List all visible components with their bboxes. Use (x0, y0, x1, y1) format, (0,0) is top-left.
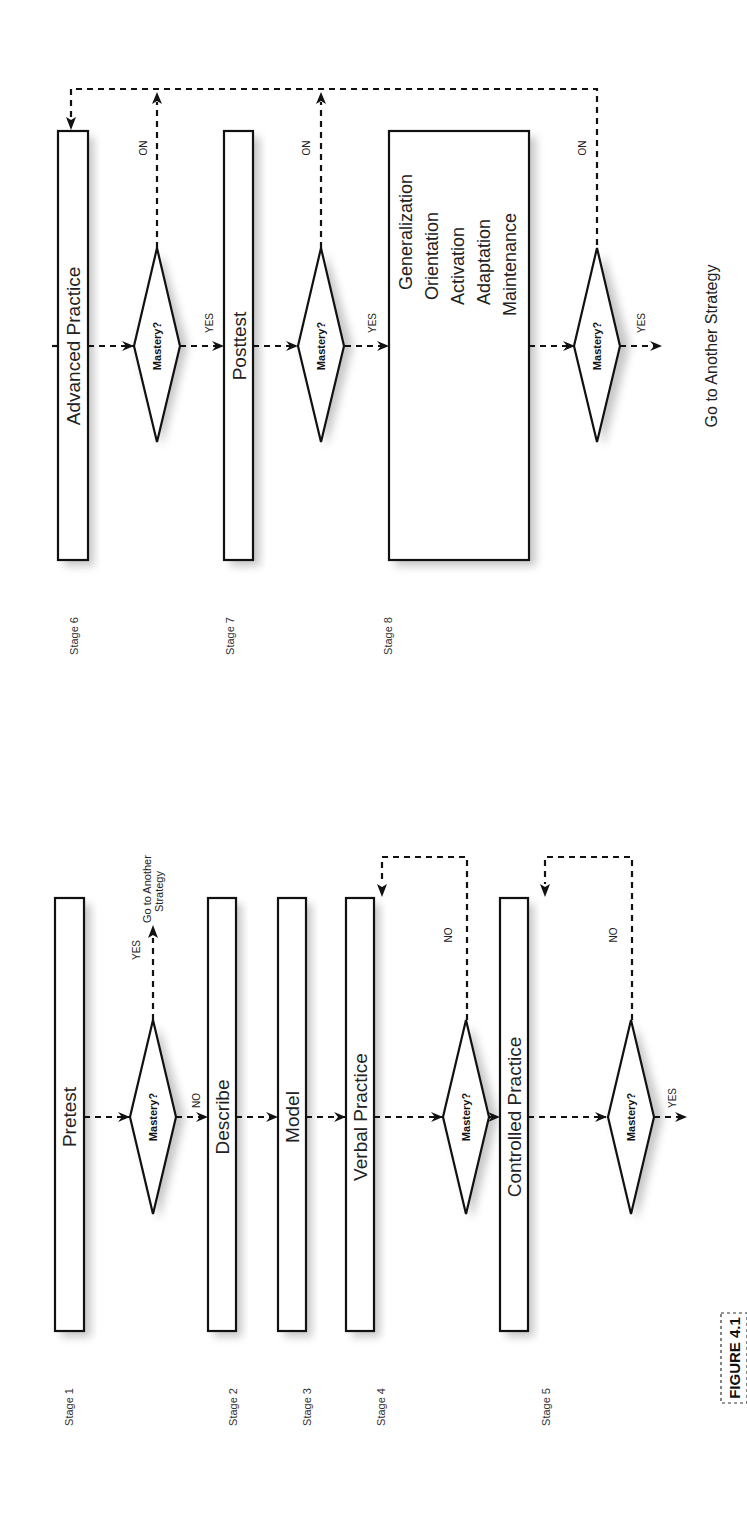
figure-label: FIGURE 4.1 (726, 1317, 743, 1399)
arrow-down-icon (540, 884, 550, 897)
stage-4-label: Stage 4 (375, 1388, 387, 1426)
go-to-another-strategy-label-line2: Strategy (153, 871, 165, 912)
left-panel: Stage 1 Pretest Stage 1 Mastery? NO YES … (55, 855, 686, 1426)
go-to-another-strategy-label: Go to Another Strategy (703, 265, 720, 428)
stage-6-label: Stage 6 (68, 617, 80, 655)
decision-label: Mastery? (625, 1093, 637, 1142)
stage-4-box-text: Verbal Practice (350, 1053, 371, 1181)
yes-label: YES (204, 313, 215, 333)
go-to-another-strategy-label: Go to Another (141, 855, 153, 923)
stage-8-label: Stage 8 (382, 617, 394, 655)
stage-2-box-text: Describe (212, 1080, 233, 1155)
stage-8-line: Adaptation (474, 219, 494, 305)
stage-1-label: Stage 1 (63, 1388, 75, 1426)
no-label: NO (300, 141, 311, 156)
decision-label: Mastery? (151, 322, 163, 371)
arrow-down-icon (377, 884, 387, 897)
no-label: NO (608, 927, 619, 942)
stage-7-box-label: Posttest (229, 311, 250, 380)
stage-3-label: Stage 3 (301, 1388, 313, 1426)
no-label: NO (137, 141, 148, 156)
stage-8-line: Maintenance (500, 213, 520, 316)
stage-7-label: Stage 7 (224, 617, 236, 655)
stage-5-label: Stage 5 (540, 1388, 552, 1426)
yes-label: YES (636, 313, 647, 333)
figure-caption: FIGURE 4.1 (721, 1313, 747, 1403)
yes-label: YES (131, 940, 142, 960)
decision-label: Mastery? (460, 1093, 472, 1142)
stage-6-box-label: Advanced Practice (63, 267, 84, 425)
right-panel: Advanced Practice Stage 6 Mastery? YES N… (52, 89, 720, 655)
decision-label: Mastery? (147, 1093, 159, 1142)
stage-8-line: Generalization (396, 174, 416, 290)
yes-label: YES (667, 1088, 678, 1108)
stage-8-line: Orientation (422, 212, 442, 300)
arrow-down-icon (66, 117, 76, 130)
decision-label: Mastery? (315, 322, 327, 371)
arrow-up-icon (148, 925, 158, 938)
stage-5-box-text: Controlled Practice (504, 1037, 525, 1198)
stage-3-box-text: Model (282, 1091, 303, 1143)
yes-label: YES (367, 313, 378, 333)
stage-8-line: Activation (448, 227, 468, 305)
no-label: NO (443, 927, 454, 942)
no-label: NO (191, 1093, 202, 1108)
decision-label: Mastery? (591, 322, 603, 371)
stage-1-box-text: Pretest (59, 1086, 80, 1147)
loop-back-line (382, 857, 467, 1020)
flowchart-canvas: Advanced Practice Stage 6 Mastery? YES N… (0, 0, 747, 1517)
stage-2-label: Stage 2 (227, 1388, 239, 1426)
no-label: NO (576, 141, 587, 156)
